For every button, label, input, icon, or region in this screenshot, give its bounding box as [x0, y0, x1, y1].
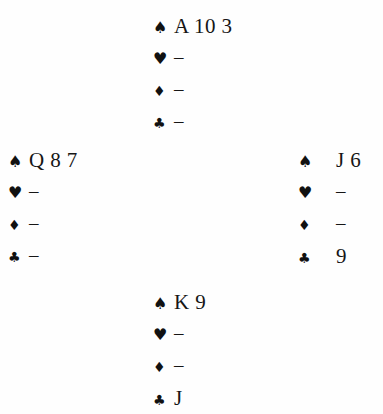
club-icon: ♣ — [153, 393, 174, 407]
hand-east: ♠ J 6 ♥ – ♦ – ♣ 9 — [298, 150, 361, 278]
hand-west-diamonds-value: – — [29, 213, 39, 232]
club-icon: ♣ — [8, 250, 29, 264]
club-icon: ♣ — [298, 251, 336, 265]
hand-east-hearts-value: – — [336, 181, 346, 200]
hand-north-diamonds-row: ♦ – — [153, 80, 232, 112]
hand-north-clubs-row: ♣ – — [153, 112, 232, 144]
spade-icon: ♠ — [153, 20, 174, 36]
hand-north: ♠ A 10 3 ♥ – ♦ – ♣ – — [153, 16, 232, 144]
heart-icon: ♥ — [298, 185, 336, 201]
diamond-icon: ♦ — [8, 218, 29, 232]
hand-north-spades-value: A 10 3 — [174, 16, 232, 37]
hand-west-hearts-value: – — [29, 181, 39, 200]
hand-south-clubs-row: ♣ J — [153, 388, 206, 414]
heart-icon: ♥ — [8, 185, 29, 201]
hand-south-clubs-value: J — [174, 388, 183, 409]
hand-west-hearts-row: ♥ – — [8, 182, 78, 214]
hand-north-hearts-row: ♥ – — [153, 48, 232, 80]
club-icon: ♣ — [153, 116, 174, 130]
hand-east-spades-row: ♠ J 6 — [298, 150, 361, 182]
hand-west-spades-row: ♠ Q 8 7 — [8, 150, 78, 182]
hand-east-diamonds-value: – — [336, 213, 346, 232]
hand-north-clubs-value: – — [174, 111, 184, 130]
heart-icon: ♥ — [153, 327, 174, 343]
hand-south-diamonds-value: – — [174, 355, 184, 374]
diamond-icon: ♦ — [298, 218, 336, 232]
hand-east-diamonds-row: ♦ – — [298, 214, 361, 246]
hand-south: ♠ K 9 ♥ – ♦ – ♣ J — [153, 292, 206, 414]
hand-south-hearts-value: – — [174, 323, 184, 342]
spade-icon: ♠ — [153, 296, 174, 312]
hand-south-spades-row: ♠ K 9 — [153, 292, 206, 324]
spade-icon: ♠ — [298, 154, 336, 170]
hand-south-diamonds-row: ♦ – — [153, 356, 206, 388]
spade-icon: ♠ — [8, 154, 29, 170]
hand-west-clubs-value: – — [29, 245, 39, 264]
diamond-icon: ♦ — [153, 84, 174, 98]
diamond-icon: ♦ — [153, 360, 174, 374]
hand-east-spades-value: J 6 — [336, 150, 361, 171]
hand-north-hearts-value: – — [174, 47, 184, 66]
hand-east-clubs-row: ♣ 9 — [298, 246, 361, 278]
hand-west-clubs-row: ♣ – — [8, 246, 78, 278]
hand-north-diamonds-value: – — [174, 79, 184, 98]
hand-east-clubs-value: 9 — [336, 246, 347, 267]
heart-icon: ♥ — [153, 51, 174, 67]
hand-south-spades-value: K 9 — [174, 292, 206, 313]
bridge-deal-diagram: ♠ A 10 3 ♥ – ♦ – ♣ – ♠ Q 8 7 ♥ – ♦ – — [0, 0, 383, 414]
hand-east-hearts-row: ♥ – — [298, 182, 361, 214]
hand-north-spades-row: ♠ A 10 3 — [153, 16, 232, 48]
hand-west-spades-value: Q 8 7 — [29, 150, 78, 171]
hand-west-diamonds-row: ♦ – — [8, 214, 78, 246]
hand-south-hearts-row: ♥ – — [153, 324, 206, 356]
hand-west: ♠ Q 8 7 ♥ – ♦ – ♣ – — [8, 150, 78, 278]
